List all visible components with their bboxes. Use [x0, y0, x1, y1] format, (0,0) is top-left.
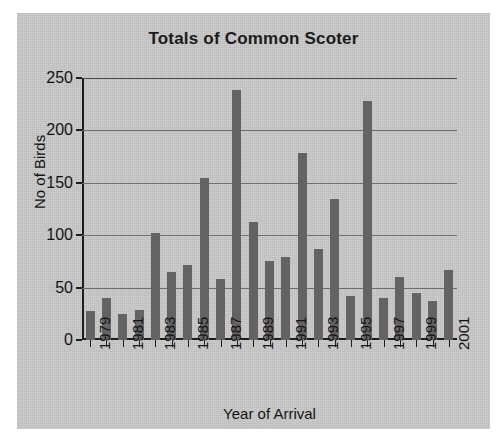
- y-tick-label-50: 50: [55, 279, 73, 297]
- x-tick-1992: [302, 340, 303, 347]
- bar-1985[interactable]: [183, 265, 192, 340]
- bar-1986[interactable]: [200, 178, 209, 340]
- bar-1991[interactable]: [281, 257, 290, 340]
- x-tick-2001: [449, 340, 450, 347]
- x-tick-1991: [286, 340, 287, 347]
- x-tick-1985: [188, 340, 189, 347]
- x-tick-label-1995: 1995: [357, 317, 374, 350]
- bar-2001[interactable]: [444, 270, 453, 340]
- x-tick-label-1997: 1997: [390, 317, 407, 350]
- x-tick-1983: [155, 340, 156, 347]
- bar-slot: [375, 78, 391, 340]
- x-tick-1994: [335, 340, 336, 347]
- x-tick-label-1987: 1987: [227, 317, 244, 350]
- x-tick-label-2001: 2001: [455, 317, 472, 350]
- plot-area: 050100150200250 197919811983198519871989…: [82, 78, 457, 340]
- bar-slot: [343, 78, 359, 340]
- bar-slot: [212, 78, 228, 340]
- bar-slot: [180, 78, 196, 340]
- x-tick-label-1991: 1991: [292, 317, 309, 350]
- x-tick-1989: [253, 340, 254, 347]
- x-tick-label-1979: 1979: [96, 317, 113, 350]
- x-axis-title: Year of Arrival: [82, 405, 457, 422]
- x-tick-1998: [400, 340, 401, 347]
- x-tick-1981: [123, 340, 124, 347]
- x-tick-1997: [384, 340, 385, 347]
- bar-slot: [196, 78, 212, 340]
- bar-slot: [441, 78, 457, 340]
- bar-1981[interactable]: [118, 314, 127, 340]
- chart-title: Totals of Common Scoter: [17, 29, 490, 49]
- bar-1999[interactable]: [412, 293, 421, 340]
- bar-slot: [163, 78, 179, 340]
- x-tick-label-1981: 1981: [129, 317, 146, 350]
- bar-slot: [229, 78, 245, 340]
- bar-slot: [326, 78, 342, 340]
- bar-1993[interactable]: [314, 249, 323, 340]
- x-tick-label-1983: 1983: [161, 317, 178, 350]
- bar-slot: [278, 78, 294, 340]
- bar-1979[interactable]: [86, 311, 95, 340]
- bar-slot: [147, 78, 163, 340]
- bar-slot: [245, 78, 261, 340]
- x-tick-1999: [416, 340, 417, 347]
- x-tick-label-1985: 1985: [194, 317, 211, 350]
- x-tick-2000: [433, 340, 434, 347]
- x-tick-label-1993: 1993: [324, 317, 341, 350]
- y-tick-label-200: 200: [46, 121, 73, 139]
- bar-slot: [98, 78, 114, 340]
- bar-slot: [310, 78, 326, 340]
- x-tick-1993: [318, 340, 319, 347]
- bars-layer: [82, 78, 457, 340]
- x-tick-1988: [237, 340, 238, 347]
- bar-1987[interactable]: [216, 279, 225, 340]
- y-axis-title: No of Birds: [31, 135, 48, 209]
- x-tick-1984: [172, 340, 173, 347]
- bar-slot: [392, 78, 408, 340]
- bar-1995[interactable]: [346, 296, 355, 340]
- y-tick-label-150: 150: [46, 174, 73, 192]
- x-tick-1987: [221, 340, 222, 347]
- bar-slot: [82, 78, 98, 340]
- x-tick-1982: [139, 340, 140, 347]
- bar-1988[interactable]: [232, 90, 241, 340]
- y-tick-label-0: 0: [64, 331, 73, 349]
- bar-slot: [261, 78, 277, 340]
- y-tick-label-250: 250: [46, 69, 73, 87]
- bar-1992[interactable]: [298, 153, 307, 340]
- x-tick-1995: [351, 340, 352, 347]
- x-tick-1996: [367, 340, 368, 347]
- x-tick-label-1999: 1999: [422, 317, 439, 350]
- chart-figure: Totals of Common Scoter No of Birds 0501…: [0, 0, 503, 441]
- bar-slot: [359, 78, 375, 340]
- x-tick-1990: [270, 340, 271, 347]
- bar-slot: [294, 78, 310, 340]
- x-tick-1979: [90, 340, 91, 347]
- bar-1997[interactable]: [379, 298, 388, 340]
- bar-1989[interactable]: [249, 222, 258, 340]
- x-tick-1980: [106, 340, 107, 347]
- chart-canvas: Totals of Common Scoter No of Birds 0501…: [17, 13, 490, 429]
- x-tick-1986: [204, 340, 205, 347]
- bar-1996[interactable]: [363, 101, 372, 340]
- bar-1983[interactable]: [151, 233, 160, 340]
- bar-slot: [131, 78, 147, 340]
- bar-slot: [408, 78, 424, 340]
- x-tick-label-1989: 1989: [259, 317, 276, 350]
- y-tick-label-100: 100: [46, 226, 73, 244]
- bar-slot: [424, 78, 440, 340]
- bar-slot: [115, 78, 131, 340]
